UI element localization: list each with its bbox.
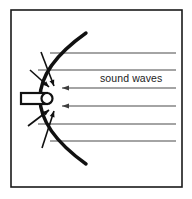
microphone-capsule [21,93,53,104]
sound-waves-label: sound waves [100,72,162,84]
diagram-container: sound waves [0,0,192,199]
microphone-cap-icon [42,93,53,104]
parabolic-reflector-diagram: sound waves [0,0,192,199]
